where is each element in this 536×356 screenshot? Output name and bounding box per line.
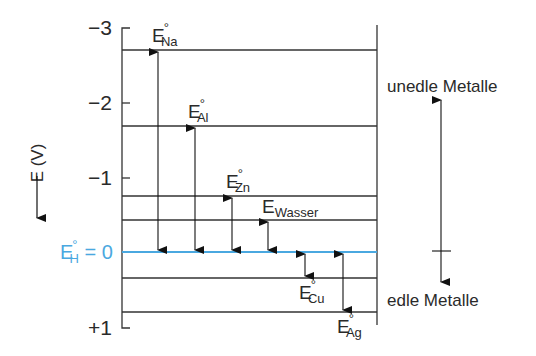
potential-arrows (158, 52, 343, 310)
tick-label: +1 (88, 316, 112, 339)
label-e-al: E°Al (188, 96, 209, 125)
label-e-na: E°Na (152, 20, 178, 49)
label-unedle-metalle: unedle Metalle (387, 77, 498, 96)
electrochemical-series-diagram: −3 −2 −1 +1 E (V) E°Na E°Al E°Zn EWasser… (0, 0, 536, 356)
tick-label: −3 (88, 16, 112, 39)
tick-label: −1 (88, 166, 112, 189)
label-e-cu: E°Cu (299, 277, 325, 306)
label-e-zn: E°Zn (226, 166, 250, 195)
label-e-wasser: EWasser (262, 196, 319, 220)
label-e-ag: E°Ag (337, 311, 362, 340)
reference-label: E°H = 0 (60, 237, 113, 266)
label-edle-metalle: edle Metalle (387, 291, 479, 310)
y-axis (122, 25, 377, 328)
tick-label: −2 (88, 91, 112, 114)
